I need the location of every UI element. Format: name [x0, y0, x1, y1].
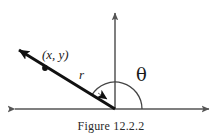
angle-arc [92, 82, 142, 109]
polar-coordinate-diagram [0, 0, 222, 138]
theta-label: θ [136, 66, 147, 84]
figure-caption: Figure 12.2.2 [0, 119, 222, 134]
point-label: (x, y) [42, 48, 69, 61]
figure-container: (x, y) r θ Figure 12.2.2 [0, 0, 222, 138]
point-marker [42, 65, 48, 71]
radius-label: r [79, 68, 84, 81]
